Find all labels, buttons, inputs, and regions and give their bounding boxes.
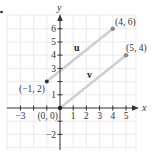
vector-plot: −3 1 2 3 4 5 6 5 4 3 1 −2 x y (−1, 2) (4…	[0, 0, 152, 153]
x-tick-label: −3	[15, 111, 25, 121]
x-tick-label: 2	[84, 111, 89, 121]
x-axis-arrow-icon	[132, 105, 139, 110]
point-origin	[58, 106, 62, 110]
x-tick-label: 5	[124, 111, 129, 121]
grid	[7, 15, 136, 150]
bullet-marker	[0, 11, 3, 14]
point-5-4	[124, 53, 128, 57]
x-axis-label: x	[141, 102, 147, 113]
point-label-m1-2: (−1, 2)	[19, 84, 45, 95]
x-tick-label: 4	[110, 111, 115, 121]
y-tick-label: 4	[51, 50, 56, 60]
point-m1-2	[45, 80, 49, 84]
y-tick-label: 3	[51, 64, 56, 74]
x-tick-label: 3	[97, 111, 102, 121]
point-label-4-6: (4, 6)	[115, 17, 136, 28]
y-tick-label: 6	[51, 24, 56, 34]
point-label-0-0: (0, 0)	[37, 111, 58, 122]
y-tick-label: 1	[51, 90, 56, 100]
vector-u-label: u	[74, 42, 80, 53]
y-tick-label: −2	[46, 130, 56, 140]
vector-v-label: v	[87, 69, 92, 80]
y-axis-label: y	[56, 2, 62, 13]
x-tick-label: 1	[71, 111, 76, 121]
y-tick-label: 5	[51, 37, 56, 47]
point-4-6	[111, 27, 115, 31]
point-label-5-4: (5, 4)	[126, 43, 147, 54]
